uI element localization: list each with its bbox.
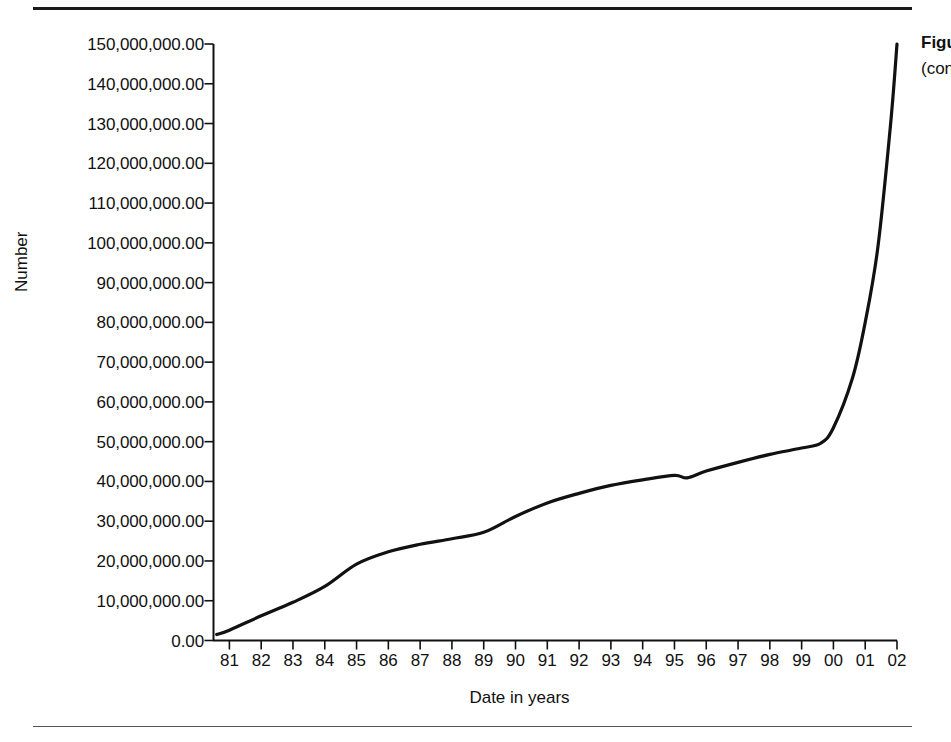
side-caption-line1: Figure xyxy=(921,30,951,56)
side-caption: Figure (conti xyxy=(921,30,951,82)
x-tick-label: 88 xyxy=(442,651,461,670)
x-tick-label: 91 xyxy=(538,651,557,670)
x-tick-label: 01 xyxy=(856,651,875,670)
x-tick-label: 89 xyxy=(474,651,493,670)
x-axis-title-text: Date in years xyxy=(469,688,569,707)
x-tick-label: 86 xyxy=(379,651,398,670)
x-tick-label: 83 xyxy=(284,651,303,670)
x-tick-label: 92 xyxy=(570,651,589,670)
x-tick-label: 85 xyxy=(347,651,366,670)
x-tick-label: 81 xyxy=(220,651,239,670)
x-tick-label: 97 xyxy=(729,651,748,670)
x-axis-title: Date in years xyxy=(0,688,935,708)
x-tick-label: 93 xyxy=(601,651,620,670)
x-tick-label: 94 xyxy=(633,651,652,670)
x-tick-label: 98 xyxy=(760,651,779,670)
y-axis-title: Number xyxy=(12,232,32,292)
x-tick-label: 90 xyxy=(506,651,525,670)
x-tick-label: 99 xyxy=(792,651,811,670)
x-tick-label: 02 xyxy=(888,651,907,670)
x-tick-label: 00 xyxy=(824,651,843,670)
side-caption-line2: (conti xyxy=(921,56,951,82)
x-tick-label: 96 xyxy=(697,651,716,670)
x-tick-label: 84 xyxy=(315,651,334,670)
x-tick-label: 87 xyxy=(411,651,430,670)
x-tick-label: 95 xyxy=(665,651,684,670)
x-tick-label: 82 xyxy=(252,651,271,670)
